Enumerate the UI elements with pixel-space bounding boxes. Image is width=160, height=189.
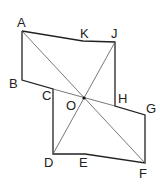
label-B: B <box>9 76 18 91</box>
label-G: G <box>146 101 156 116</box>
label-A: A <box>17 15 26 30</box>
label-H: H <box>118 91 127 106</box>
point-O <box>82 96 85 99</box>
label-J: J <box>111 26 118 41</box>
label-K: K <box>80 26 89 41</box>
label-D: D <box>44 155 53 170</box>
label-C: C <box>42 88 51 103</box>
label-E: E <box>79 155 88 170</box>
label-O: O <box>66 98 76 113</box>
geometry-diagram: A K J B C O H G D E F <box>0 0 160 189</box>
label-F: F <box>139 166 147 181</box>
